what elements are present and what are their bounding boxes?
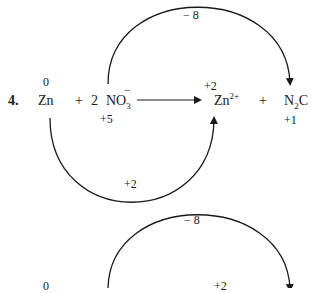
nitrate-oxidation-state: +5 — [100, 113, 113, 125]
nitrate-charge: − — [124, 84, 131, 96]
n2o-oxidation-state: +1 — [284, 114, 297, 126]
problem-number: 4. — [8, 94, 19, 108]
repeat-gain-label: − 8 — [184, 214, 200, 226]
n2o-product: N2C — [284, 94, 308, 108]
plus-sign-1: + — [75, 94, 83, 108]
zn2-product: Zn2+ — [214, 94, 239, 108]
nitrate-coefficient: 2 — [91, 94, 98, 108]
zn2-oxidation-state: +2 — [204, 80, 217, 92]
gain-label: − 8 — [183, 9, 199, 21]
zn-oxidation-state: 0 — [43, 76, 49, 88]
plus-sign-2: + — [259, 94, 267, 108]
repeat-zn2-oxidation-state: +2 — [214, 280, 227, 292]
zn-reactant: Zn — [38, 94, 54, 108]
repeat-zn-oxidation-state: 0 — [43, 280, 49, 292]
gain-arc-top — [108, 7, 290, 84]
loss-label: +2 — [124, 178, 137, 190]
